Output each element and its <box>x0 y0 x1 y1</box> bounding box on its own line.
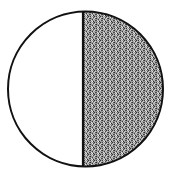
half-shaded-circle-diagram <box>0 0 173 171</box>
right-half-shaded-region <box>83 0 173 171</box>
